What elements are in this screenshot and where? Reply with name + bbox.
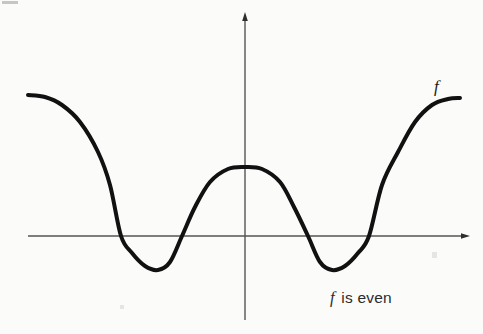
function-curve [28, 95, 460, 270]
function-plot [0, 0, 483, 334]
caption-symbol-f: f [330, 288, 337, 307]
even-function-figure: f f is even [0, 0, 483, 334]
caption-rest-text: is even [337, 289, 392, 306]
curve-label-f: f [434, 77, 439, 97]
figure-caption: f is even [330, 288, 392, 308]
